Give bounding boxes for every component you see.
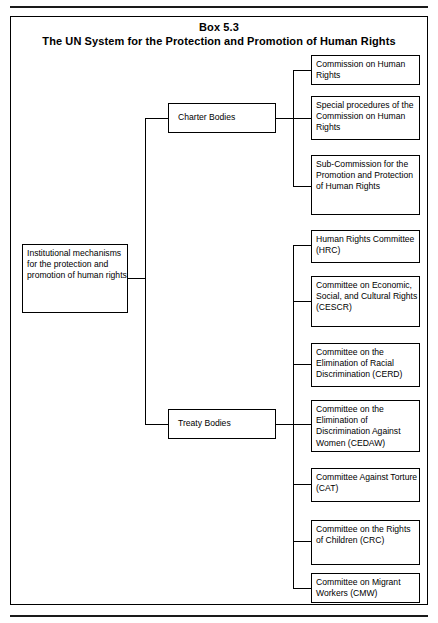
node-cmw[interactable]: Committee on Migrant Workers (CMW) (311, 573, 420, 603)
box-label: Box 5.3 (11, 20, 427, 34)
node-sub-commission[interactable]: Sub-Commission for the Promotion and Pro… (311, 155, 420, 215)
node-charter-bodies[interactable]: Charter Bodies (168, 103, 276, 133)
connector-charter-trunk (293, 70, 294, 187)
connector-treaty-child-1 (293, 245, 312, 246)
node-cedaw[interactable]: Committee on the Elimination of Discrimi… (311, 400, 420, 452)
box-title-block: Box 5.3 The UN System for the Protection… (11, 20, 427, 48)
connector-to-treaty-bodies (145, 424, 169, 425)
node-special-procedures[interactable]: Special procedures of the Commission on … (311, 96, 420, 140)
page-rule-top (10, 6, 428, 8)
node-institutional-mechanisms[interactable]: Institutional mechanisms for the protect… (22, 244, 128, 313)
node-commission-on-human-rights[interactable]: Commission on Human Rights (311, 55, 420, 85)
node-cerd[interactable]: Committee on the Elimination of Racial D… (311, 343, 420, 387)
node-cescr[interactable]: Committee on Economic, Social, and Cultu… (311, 276, 420, 327)
connector-charter-child-1 (293, 70, 312, 71)
connector-treaty-trunk (293, 245, 294, 588)
node-treaty-bodies[interactable]: Treaty Bodies (168, 409, 276, 439)
connector-charter-stub (275, 118, 294, 119)
connector-treaty-stub (275, 424, 294, 425)
connector-charter-child-2 (293, 118, 312, 119)
connector-treaty-child-3 (293, 364, 312, 365)
connector-treaty-child-7 (293, 588, 312, 589)
node-crc[interactable]: Committee on the Rights of Children (CRC… (311, 520, 420, 565)
connector-main-trunk (145, 118, 146, 425)
node-hrc[interactable]: Human Rights Committee (HRC) (311, 230, 420, 263)
connector-treaty-child-5 (293, 484, 312, 485)
connector-root-stub (127, 278, 146, 279)
connector-treaty-child-4 (293, 424, 312, 425)
page-rule-bottom (10, 615, 428, 617)
node-cat[interactable]: Committee Against Torture (CAT) (311, 468, 420, 502)
page-title: The UN System for the Protection and Pro… (11, 34, 427, 48)
connector-treaty-child-2 (293, 301, 312, 302)
connector-treaty-child-6 (293, 541, 312, 542)
connector-charter-child-3 (293, 186, 312, 187)
box-figure-page: Box 5.3 The UN System for the Protection… (0, 0, 438, 623)
connector-to-charter-bodies (145, 118, 169, 119)
